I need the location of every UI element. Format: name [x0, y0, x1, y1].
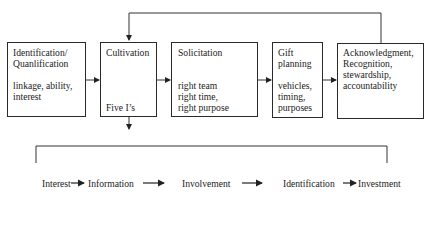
identification-detail-1: linkage, ability, — [13, 81, 72, 92]
flow-involvement: Involvement — [182, 178, 231, 189]
acknowledgment-line-2: Recognition, — [343, 59, 392, 70]
solicitation-title: Solicitation — [178, 48, 222, 59]
gift-title-2: planning — [278, 59, 312, 70]
solicitation-detail-1: right team — [178, 81, 217, 92]
solicitation-detail-2: right time, — [178, 92, 218, 103]
acknowledgment-line-1: Acknowledgment, — [343, 48, 414, 59]
flow-interest: Interest — [42, 178, 71, 189]
gift-title-1: Gift — [278, 48, 293, 59]
flow-information: Information — [88, 178, 134, 189]
five-is-bracket — [36, 146, 387, 163]
solicitation-detail-3: right purpose — [178, 103, 229, 114]
acknowledgment-line-4: accountability — [343, 81, 397, 92]
acknowledgment-line-3: stewardship, — [343, 70, 391, 81]
gift-detail-1: vehicles, — [278, 81, 312, 92]
cultivation-title: Cultivation — [106, 48, 149, 59]
gift-detail-3: purposes — [278, 103, 312, 114]
identification-detail-2: interest — [13, 92, 41, 103]
cultivation-detail: Five I’s — [106, 103, 135, 114]
flow-investment: Investment — [358, 178, 401, 189]
identification-title-1: Identification/ — [13, 48, 67, 59]
flow-identification: Identification — [283, 178, 335, 189]
gift-detail-2: timing, — [278, 92, 305, 103]
identification-title-2: Quanlification — [13, 59, 68, 70]
